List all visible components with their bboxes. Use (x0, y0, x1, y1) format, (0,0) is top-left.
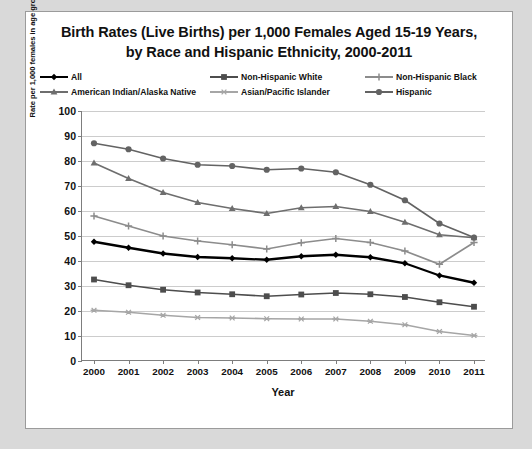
legend-item: All (40, 72, 210, 82)
legend-marker-icon (210, 72, 238, 82)
legend-item: Non-Hispanic White (210, 72, 365, 82)
legend-item-label: Asian/Pacific Islander (241, 87, 330, 97)
legend-item: Hispanic (365, 87, 506, 97)
y-axis-tick-label: 10 (64, 330, 76, 342)
x-axis-tick-label: 2003 (187, 366, 209, 377)
y-axis-tick-label: 70 (64, 180, 76, 192)
legend-item-label: Hispanic (396, 87, 432, 97)
legend-item-label: Non-Hispanic Black (396, 72, 477, 82)
legend-item: American Indian/Alaska Native (40, 87, 210, 97)
x-axis-tick-label: 2002 (152, 366, 174, 377)
x-axis-tick-label: 2010 (429, 366, 451, 377)
y-tick-mark (78, 361, 82, 362)
legend-marker-icon (40, 72, 68, 82)
y-axis-tick-label: 60 (64, 205, 76, 217)
x-axis-tick-label: 2004 (221, 366, 243, 377)
x-axis-tick-label: 2001 (118, 366, 140, 377)
legend-item-label: American Indian/Alaska Native (71, 87, 196, 97)
chart-title-line-2: by Race and Hispanic Ethnicity, 2000-201… (44, 43, 494, 63)
y-axis-tick-label: 80 (64, 155, 76, 167)
legend-item-label: All (71, 72, 82, 82)
legend-item: Asian/Pacific Islander (210, 87, 365, 97)
y-axis-tick-label: 50 (64, 230, 76, 242)
chart-title-line-1: Birth Rates (Live Births) per 1,000 Fema… (61, 24, 477, 40)
chart-card: Birth Rates (Live Births) per 1,000 Fema… (25, 11, 513, 429)
x-axis-tick-label: 2009 (394, 366, 416, 377)
legend-marker-icon (365, 72, 393, 82)
chart-legend: All Non-Hispanic White Non-Hispanic Blac… (32, 72, 506, 97)
legend-item-label: Non-Hispanic White (241, 72, 322, 82)
plot-canvas: 0102030405060708090100200020012002200320… (81, 111, 485, 361)
legend-marker-icon (210, 87, 238, 97)
y-axis-tick-label: 90 (64, 130, 76, 142)
x-axis-tick-label: 2007 (325, 366, 347, 377)
x-axis-tick-label: 2005 (256, 366, 278, 377)
plot-area: Rate per 1,000 females in age group for … (26, 103, 512, 393)
legend-marker-icon (40, 87, 68, 97)
y-axis-tick-label: 0 (70, 355, 76, 367)
x-axis-tick-label: 2008 (359, 366, 381, 377)
chart-title: Birth Rates (Live Births) per 1,000 Fema… (26, 12, 512, 62)
y-axis-tick-label: 100 (58, 105, 76, 117)
legend-item: Non-Hispanic Black (365, 72, 506, 82)
y-axis-tick-label: 40 (64, 255, 76, 267)
y-axis-title: Rate per 1,000 females in age group for … (28, 0, 37, 121)
x-axis-tick-label: 2006 (290, 366, 312, 377)
x-axis-title: Year (81, 386, 485, 398)
x-axis-tick-label: 2000 (83, 366, 105, 377)
x-axis-tick-label: 2011 (463, 366, 484, 377)
y-axis-tick-label: 30 (64, 280, 76, 292)
legend-marker-icon (365, 87, 393, 97)
y-axis-tick-label: 20 (64, 305, 76, 317)
series-layer (82, 111, 486, 361)
